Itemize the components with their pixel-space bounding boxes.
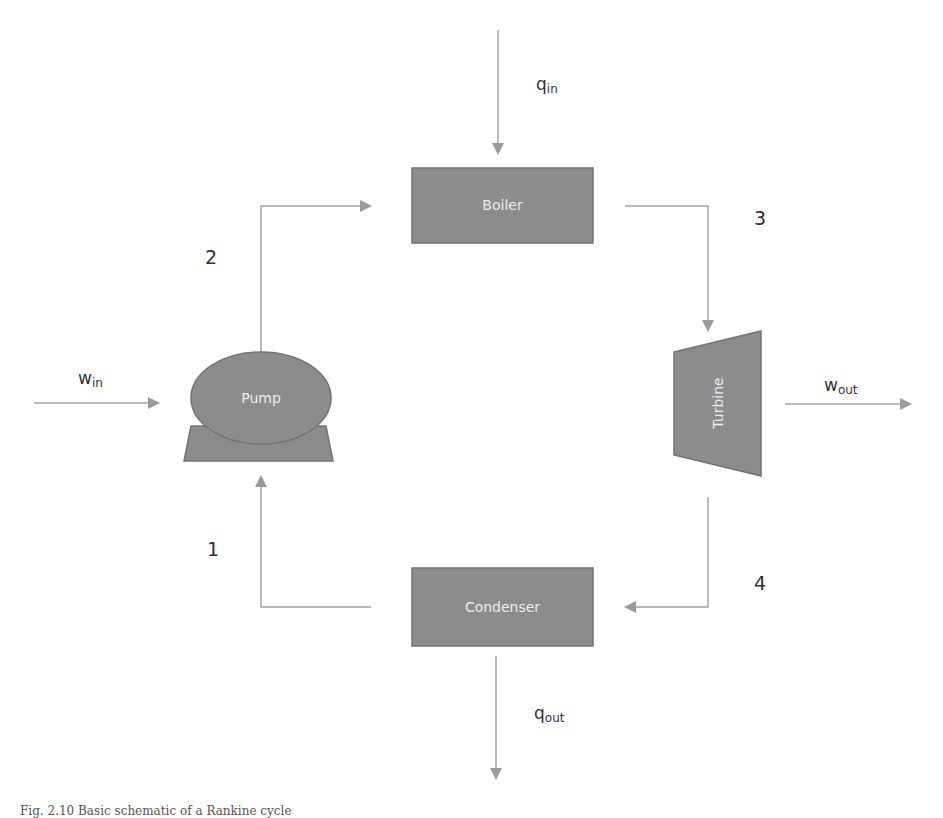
state-4-label: 4: [754, 574, 766, 593]
state-2-label: 2: [205, 248, 217, 267]
q-in-subscript: in: [547, 82, 558, 96]
flow-condenser-to-pump: [261, 477, 371, 607]
w-out-symbol: w: [824, 375, 838, 395]
flow-boiler-to-turbine: [625, 206, 708, 330]
q-in-symbol: q: [536, 74, 547, 94]
condenser-label: Condenser: [412, 600, 593, 614]
w-in-subscript: in: [92, 376, 103, 390]
turbine-label: Turbine: [711, 353, 725, 453]
w-out-subscript: out: [838, 383, 858, 397]
pump-label: Pump: [191, 391, 331, 405]
w-in-symbol: w: [78, 368, 92, 388]
q-in-label: qin: [536, 76, 558, 95]
state-3-label: 3: [754, 209, 766, 228]
state-1-label: 1: [207, 540, 219, 559]
boiler-label: Boiler: [412, 198, 593, 212]
q-out-symbol: q: [534, 703, 545, 723]
q-out-label: qout: [534, 705, 564, 724]
w-out-label: wout: [824, 377, 858, 396]
flow-turbine-to-condenser: [626, 497, 708, 607]
q-out-subscript: out: [545, 711, 565, 725]
figure-caption: Fig. 2.10 Basic schematic of a Rankine c…: [20, 805, 292, 817]
flow-pump-to-boiler: [261, 206, 370, 352]
w-in-label: win: [78, 370, 103, 389]
